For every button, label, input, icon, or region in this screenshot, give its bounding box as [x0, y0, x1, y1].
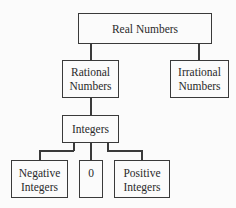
edge-real-irrational	[198, 44, 200, 60]
edge-integers-zero	[90, 143, 92, 160]
edge-real-rational	[90, 44, 92, 60]
node-positive-integers-label: Positive Integers	[123, 166, 160, 194]
node-integers: Integers	[62, 115, 119, 143]
label-line: Numbers	[178, 80, 220, 92]
label-line: Integers	[123, 181, 160, 193]
node-real-numbers: Real Numbers	[78, 13, 212, 44]
label-line: Positive	[123, 167, 160, 179]
node-positive-integers: Positive Integers	[114, 160, 170, 198]
label-line: Negative	[19, 167, 61, 179]
node-rational-numbers: Rational Numbers	[62, 60, 119, 98]
node-rational-numbers-label: Rational Numbers	[69, 65, 111, 93]
edge-integers-positive-c	[141, 150, 143, 160]
edge-rational-integers	[90, 98, 92, 115]
node-irrational-numbers: Irrational Numbers	[170, 60, 229, 98]
node-zero: 0	[79, 160, 103, 198]
label-line: Irrational	[178, 66, 221, 78]
node-negative-integers-label: Negative Integers	[19, 166, 61, 194]
edge-integers-negative-c	[39, 150, 41, 160]
node-integers-label: Integers	[72, 122, 109, 136]
label-line: Numbers	[69, 80, 111, 92]
edge-integers-negative-b	[39, 150, 74, 152]
edge-integers-positive-b	[107, 150, 142, 152]
label-line: Rational	[71, 66, 110, 78]
node-real-numbers-label: Real Numbers	[112, 22, 178, 36]
label-line: Integers	[21, 181, 58, 193]
node-zero-label: 0	[88, 166, 94, 180]
node-negative-integers: Negative Integers	[11, 160, 68, 198]
node-irrational-numbers-label: Irrational Numbers	[178, 65, 221, 93]
